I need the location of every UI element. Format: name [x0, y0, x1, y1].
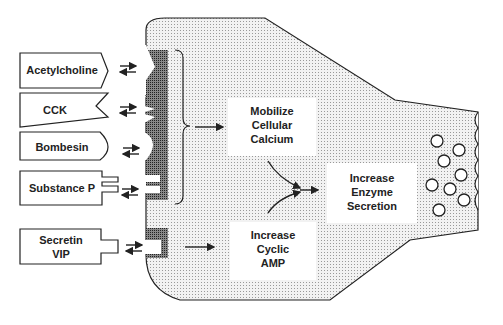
- label-bombesin: Bombesin: [20, 141, 104, 154]
- label-secretin: Secretin: [20, 234, 102, 247]
- calcium-line-3: Calcium: [228, 133, 316, 146]
- calcium-line-2: Cellular: [228, 119, 316, 132]
- label-acetylcholine: Acetylcholine: [20, 64, 104, 77]
- label-vip: VIP: [20, 248, 102, 261]
- secretion-line-1: Increase: [327, 172, 417, 185]
- label-substance-p: Substance P: [22, 182, 102, 195]
- camp-line-1: Increase: [230, 229, 316, 242]
- camp-line-2: Cyclic: [230, 243, 316, 256]
- label-cck: CCK: [20, 104, 90, 117]
- secretion-line-2: Enzyme: [327, 186, 417, 199]
- secretion-line-3: Secretion: [327, 200, 417, 213]
- camp-line-3: AMP: [230, 257, 316, 270]
- calcium-line-1: Mobilize: [228, 105, 316, 118]
